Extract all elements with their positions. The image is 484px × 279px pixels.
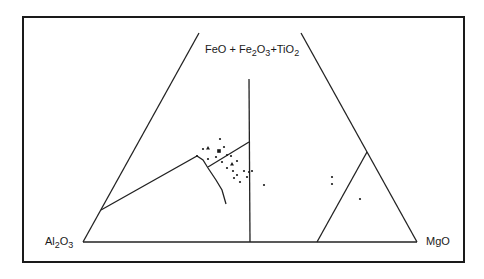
data-point-dot [263, 184, 265, 186]
left-field-boundary [101, 156, 226, 210]
data-point-square [217, 149, 221, 153]
right-subtriangle-side [317, 152, 367, 242]
data-point-dot [207, 158, 209, 160]
triangle-left-side [83, 33, 199, 242]
data-point-triangle [230, 162, 234, 166]
data-point-dot [215, 156, 217, 158]
data-point-dot [233, 177, 235, 179]
data-point-dot [243, 170, 245, 172]
data-point-dot [202, 148, 204, 150]
data-point-dot [251, 170, 253, 172]
tie-line [208, 142, 249, 167]
triangle-right-side [301, 33, 417, 242]
data-point-dot [226, 167, 228, 169]
data-point-dot [248, 171, 250, 173]
data-point-dot [196, 155, 198, 157]
data-point-dot [223, 146, 225, 148]
data-point-dot [219, 138, 221, 140]
data-point-dot [230, 155, 232, 157]
data-point-dot [236, 174, 238, 176]
data-point-dot [331, 176, 333, 178]
data-point-dot [236, 160, 238, 162]
data-point-dot [246, 176, 248, 178]
ternary-diagram: FeO + Fe2O3+TiO2 Al2O3 MgO [0, 0, 484, 279]
left-vertex-label: Al2O3 [45, 235, 73, 250]
vertical-divider [249, 79, 250, 242]
data-point-dot [359, 198, 361, 200]
apex-label: FeO + Fe2O3+TiO2 [205, 43, 299, 58]
data-point-dot [239, 181, 241, 183]
data-points [196, 138, 361, 200]
data-point-dot [221, 161, 223, 163]
data-point-dot [226, 154, 228, 156]
data-point-triangle [206, 146, 210, 150]
right-vertex-label: MgO [426, 235, 450, 247]
data-point-dot [232, 170, 234, 172]
data-point-dot [331, 183, 333, 185]
